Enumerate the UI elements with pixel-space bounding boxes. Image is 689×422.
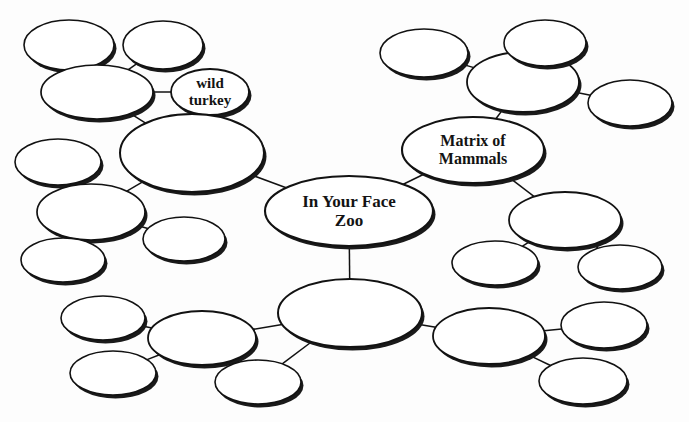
node-ellipse-blank[interactable] xyxy=(15,139,101,185)
node-ellipse-blank[interactable] xyxy=(578,245,662,289)
mind-map-canvas: wild turkeyIn Your Face ZooMatrix of Mam… xyxy=(0,0,689,422)
connector-line xyxy=(403,174,424,184)
node-ellipse-blank[interactable] xyxy=(215,360,301,404)
connector-line xyxy=(253,324,282,329)
node-ellipse-labeled[interactable] xyxy=(171,69,249,115)
connector-line xyxy=(147,355,159,360)
node-ellipse-blank[interactable] xyxy=(278,279,422,347)
node-ellipse-blank[interactable] xyxy=(148,311,256,365)
node-ellipse-blank[interactable] xyxy=(452,241,538,285)
node-ellipse-blank[interactable] xyxy=(504,20,586,66)
node-ellipse-blank[interactable] xyxy=(24,20,114,70)
node-ellipse-blank[interactable] xyxy=(509,192,621,248)
node-ellipse-blank[interactable] xyxy=(433,308,545,364)
node-ellipse-blank[interactable] xyxy=(70,351,156,395)
node-ellipse-blank[interactable] xyxy=(37,184,145,240)
node-layer xyxy=(15,20,675,408)
node-ellipse-blank[interactable] xyxy=(561,302,647,348)
node-ellipse-blank[interactable] xyxy=(539,358,627,404)
node-ellipse-labeled[interactable] xyxy=(402,117,544,183)
connector-line xyxy=(251,175,286,188)
node-ellipse-blank[interactable] xyxy=(120,114,264,192)
node-ellipse-labeled[interactable] xyxy=(265,176,433,246)
connector-line xyxy=(544,329,562,331)
node-ellipse-blank[interactable] xyxy=(380,29,468,77)
mind-map-graphic xyxy=(0,0,689,422)
node-ellipse-blank[interactable] xyxy=(143,217,225,261)
node-ellipse-blank[interactable] xyxy=(123,21,203,69)
node-ellipse-blank[interactable] xyxy=(588,80,672,126)
node-ellipse-blank[interactable] xyxy=(41,65,153,119)
connector-line xyxy=(127,182,143,191)
node-ellipse-blank[interactable] xyxy=(61,296,145,340)
connector-line xyxy=(282,342,311,364)
node-ellipse-blank[interactable] xyxy=(21,238,105,282)
